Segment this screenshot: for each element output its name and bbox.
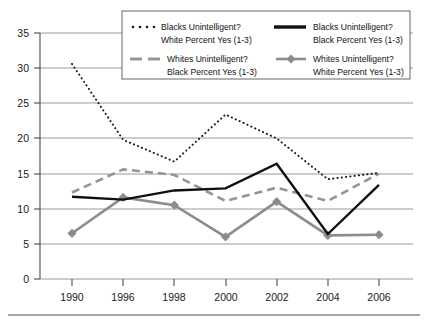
series-line-whites-unintelligent-white-percent xyxy=(72,197,379,236)
y-tick-label-5: 5 xyxy=(23,238,29,250)
chart-legend: Blacks Unintelligent? White Percent Yes … xyxy=(122,11,410,79)
data-point-marker xyxy=(374,230,383,239)
x-tick-label-1996: 1996 xyxy=(111,291,135,303)
chart-container: 35 30 25 20 15 10 5 0 1990 1996 1998 200… xyxy=(0,0,428,323)
legend-label-line1: Whites Unintelligent? xyxy=(167,54,248,64)
y-tick-label-20: 20 xyxy=(17,132,29,144)
y-tick-label-0: 0 xyxy=(23,273,29,285)
x-tick-label-2006: 2006 xyxy=(367,291,391,303)
legend-label-line1: Blacks Unintelligent? xyxy=(161,22,241,32)
x-tick-label-1990: 1990 xyxy=(60,291,84,303)
x-tick-label-2000: 2000 xyxy=(214,291,238,303)
legend-label-line2: Black Percent Yes (1-3) xyxy=(313,35,403,45)
x-tick-label-2002: 2002 xyxy=(265,291,289,303)
line-chart: 35 30 25 20 15 10 5 0 1990 1996 1998 200… xyxy=(0,0,428,323)
y-tick-label-25: 25 xyxy=(17,97,29,109)
x-axis: 1990 1996 1998 2000 2002 2004 2006 xyxy=(60,279,391,303)
legend-label-line2: White Percent Yes (1-3) xyxy=(313,67,404,77)
x-tick-label-1998: 1998 xyxy=(162,291,186,303)
y-tick-label-35: 35 xyxy=(17,27,29,39)
legend-label-line2: White Percent Yes (1-3) xyxy=(161,35,252,45)
y-axis: 35 30 25 20 15 10 5 0 xyxy=(17,27,40,285)
y-tick-label-15: 15 xyxy=(17,168,29,180)
legend-label-line1: Whites Unintelligent? xyxy=(313,54,394,64)
series-line-blacks-unintelligent-white-percent xyxy=(72,64,379,179)
legend-label-line1: Blacks Unintelligent? xyxy=(313,22,393,32)
y-tick-label-10: 10 xyxy=(17,203,29,215)
data-series-group xyxy=(67,64,383,241)
legend-label-line2: Black Percent Yes (1-3) xyxy=(167,67,257,77)
x-tick-label-2004: 2004 xyxy=(316,291,340,303)
y-tick-label-30: 30 xyxy=(17,62,29,74)
